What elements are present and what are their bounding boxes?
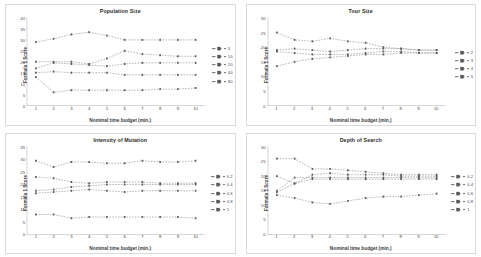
y-tick-label: 30	[20, 157, 25, 162]
legend-label: 0.8	[467, 199, 473, 204]
series-marker	[435, 178, 437, 180]
legend: 2345	[455, 50, 473, 80]
y-tick-label: 10	[261, 74, 266, 79]
series-line	[36, 77, 196, 92]
series-marker	[71, 89, 73, 91]
legend-item[interactable]: 0.2	[211, 174, 233, 179]
series-marker	[124, 39, 126, 41]
legend-label: 5	[228, 46, 230, 51]
legend-key-icon	[451, 207, 465, 212]
series-marker	[71, 63, 73, 65]
legend-item[interactable]: 3	[455, 58, 473, 63]
x-axis-label: Nominal time budget (min.)	[247, 118, 476, 123]
y-tick-label: 20	[261, 173, 266, 178]
series-marker	[53, 188, 55, 190]
series-marker	[195, 55, 197, 57]
series-marker	[35, 67, 37, 69]
legend-item[interactable]: 10	[212, 54, 233, 59]
series-marker	[400, 195, 402, 197]
legend-item[interactable]: 1	[451, 207, 473, 212]
legend-item[interactable]: 20	[212, 62, 233, 67]
series-marker	[53, 177, 55, 179]
legend-item[interactable]: 0.4	[451, 183, 473, 188]
legend-item[interactable]: 4	[455, 66, 473, 71]
series-marker	[142, 53, 144, 55]
series-marker	[276, 65, 278, 67]
x-axis-ticks: 12345678910	[27, 106, 205, 115]
legend-label: 2	[471, 50, 473, 55]
legend-item[interactable]: 0.2	[451, 174, 473, 179]
legend-label: 0.2	[227, 174, 233, 179]
legend-item[interactable]: 0.4	[211, 183, 233, 188]
series-marker	[53, 91, 55, 93]
series-marker	[124, 162, 126, 164]
series-marker	[435, 49, 437, 51]
legend-item[interactable]: 5	[455, 75, 473, 80]
series-marker	[329, 53, 331, 55]
series-marker	[106, 181, 108, 183]
series-marker	[35, 192, 37, 194]
series-line	[276, 177, 436, 190]
legend-item[interactable]: 5	[212, 46, 233, 51]
chart-title: Intensity of Mutation	[6, 137, 235, 143]
series-marker	[364, 197, 366, 199]
plot-svg	[268, 18, 446, 106]
series-marker	[311, 167, 313, 169]
y-tick-label: 20	[261, 45, 266, 50]
y-tick-label: 25	[20, 169, 25, 174]
series-marker	[88, 161, 90, 163]
legend-key-icon	[211, 183, 225, 188]
series-marker	[329, 202, 331, 204]
x-axis-label: Nominal time budget (min.)	[247, 246, 476, 251]
series-marker	[71, 181, 73, 183]
series-marker	[364, 53, 366, 55]
series-marker	[293, 39, 295, 41]
legend-item[interactable]: 0.8	[211, 199, 233, 204]
chart-title: Population Size	[6, 8, 235, 14]
series-marker	[88, 216, 90, 218]
legend-item[interactable]: 1	[211, 207, 233, 212]
chart-panel-4: Depth of SearchFormula 1 ScoreNominal ti…	[241, 129, 481, 257]
series-marker	[106, 35, 108, 37]
y-tick-label: 30	[261, 16, 266, 21]
series-marker	[177, 183, 179, 185]
series-marker	[293, 197, 295, 199]
legend-label: 5	[471, 75, 473, 80]
series-marker	[124, 74, 126, 76]
legend-item[interactable]: 0.8	[451, 199, 473, 204]
series-marker	[88, 184, 90, 186]
series-marker	[276, 175, 278, 177]
series-marker	[159, 39, 161, 41]
series-marker	[311, 58, 313, 60]
legend-item[interactable]: 40	[212, 70, 233, 75]
y-tick-label: 35	[20, 26, 25, 31]
chart-box: Depth of SearchFormula 1 ScoreNominal ti…	[246, 133, 477, 255]
series-marker	[382, 178, 384, 180]
legend-item[interactable]: 2	[455, 50, 473, 55]
legend-item[interactable]: 0.6	[211, 191, 233, 196]
series-marker	[142, 216, 144, 218]
series-marker	[177, 216, 179, 218]
legend-label: 40	[228, 70, 233, 75]
plot-area: 051015202530354012345678910	[27, 18, 205, 106]
legend-item[interactable]: 80	[212, 79, 233, 84]
series-marker	[418, 178, 420, 180]
legend-label: 3	[471, 58, 473, 63]
series-marker	[106, 162, 108, 164]
series-marker	[347, 173, 349, 175]
series-marker	[106, 216, 108, 218]
plot-svg	[27, 147, 205, 235]
series-marker	[347, 169, 349, 171]
y-tick-label: 10	[261, 202, 266, 207]
series-marker	[195, 62, 197, 64]
series-line	[36, 160, 196, 166]
legend-item[interactable]: 0.6	[451, 191, 473, 196]
series-marker	[142, 181, 144, 183]
chart-box: Intensity of MutationFormula 1 ScoreNomi…	[5, 133, 236, 255]
series-marker	[35, 76, 37, 78]
series-marker	[435, 192, 437, 194]
legend-label: 1	[227, 207, 229, 212]
series-marker	[106, 89, 108, 91]
series-line	[36, 214, 196, 218]
series-marker	[293, 182, 295, 184]
